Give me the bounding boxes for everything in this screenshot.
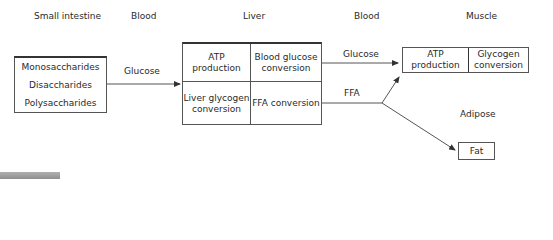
header-adipose: Adipose [460, 110, 496, 119]
label-glucose-right: Glucose [343, 50, 379, 59]
muscle-atp-production: ATP production [403, 48, 469, 72]
gray-bar [0, 172, 60, 179]
fat-label: Fat [459, 143, 494, 159]
liver-blood-glucose-conversion: Blood glucose conversion [251, 44, 321, 82]
intestine-box: Monosaccharides Disaccharides Polysaccha… [14, 56, 107, 113]
muscle-glycogen-conversion: Glycogen conversion [469, 48, 528, 72]
arrow-ffa-to-fat [382, 103, 455, 150]
label-ffa: FFA [344, 89, 360, 98]
liver-atp-production: ATP production [183, 44, 251, 82]
liver-box: ATP production Blood glucose conversion … [182, 42, 322, 125]
liver-ffa-conversion: FFA conversion [251, 82, 321, 125]
arrow-ffa-to-muscle [382, 77, 399, 103]
liver-glycogen-conversion: Liver glycogen conversion [183, 82, 251, 125]
label-glucose-left: Glucose [124, 67, 160, 76]
muscle-box: ATP production Glycogen conversion [402, 47, 529, 73]
fat-box: Fat [458, 142, 495, 160]
item-polysaccharides: Polysaccharides [25, 98, 97, 108]
item-monosaccharides: Monosaccharides [22, 62, 100, 72]
item-disaccharides: Disaccharides [29, 80, 92, 90]
